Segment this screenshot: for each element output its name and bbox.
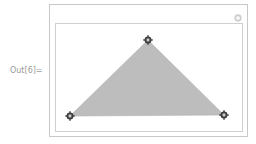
notebook-output-cell: Out[6]=	[0, 0, 256, 144]
polygon-graphic	[0, 0, 256, 144]
triangle-polygon	[70, 40, 224, 116]
